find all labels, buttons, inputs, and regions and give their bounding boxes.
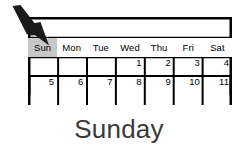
calendar-day-cell[interactable]: 2	[145, 57, 174, 76]
calendar-day-cell[interactable]	[28, 57, 57, 76]
calendar-day-cell[interactable]: 10	[174, 76, 203, 95]
weekday-header-wed[interactable]: Wed	[115, 38, 144, 57]
calendar-day-cell[interactable]: 8	[115, 76, 144, 95]
calendar-day-cell[interactable]: 9	[145, 76, 174, 95]
calendar-title-bar	[28, 17, 232, 38]
calendar-week-row: 5 6 7 8 9 10 11	[28, 76, 232, 95]
calendar-day-cell[interactable]: 3	[174, 57, 203, 76]
calendar-day-cell[interactable]: 4	[203, 57, 232, 76]
calendar-widget: Sun Mon Tue Wed Thu Fri Sat 1 2 3 4 5 6 …	[28, 17, 232, 106]
calendar-day-cell[interactable]: 11	[203, 76, 232, 95]
weekday-header-row: Sun Mon Tue Wed Thu Fri Sat	[28, 38, 232, 57]
calendar-day-cell[interactable]	[57, 57, 86, 76]
weekday-header-tue[interactable]: Tue	[86, 38, 115, 57]
calendar-day-cell[interactable]: 1	[115, 57, 144, 76]
calendar-day-cell[interactable]: 6	[57, 76, 86, 95]
calendar-week-row: 1 2 3 4	[28, 57, 232, 76]
weekday-header-sat[interactable]: Sat	[203, 38, 232, 57]
calendar-day-cell[interactable]: 5	[28, 76, 57, 95]
weekday-header-fri[interactable]: Fri	[174, 38, 203, 57]
illustration-canvas: Sun Mon Tue Wed Thu Fri Sat 1 2 3 4 5 6 …	[0, 0, 238, 151]
calendar-day-cell[interactable]	[86, 57, 115, 76]
caption-text: Sunday	[0, 112, 238, 146]
weekday-header-sun[interactable]: Sun	[28, 38, 57, 57]
weekday-header-mon[interactable]: Mon	[57, 38, 86, 57]
calendar-day-cell[interactable]: 7	[86, 76, 115, 95]
weekday-header-thu[interactable]: Thu	[145, 38, 174, 57]
